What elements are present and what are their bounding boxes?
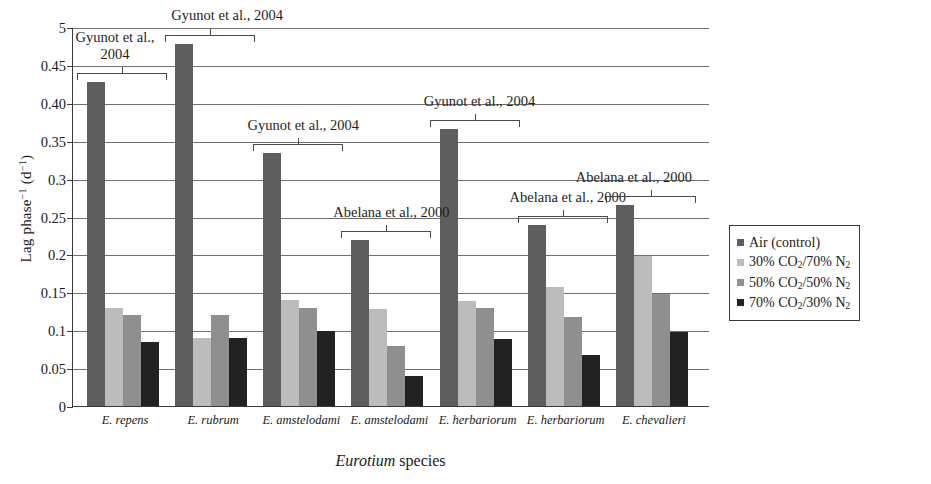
bar[interactable]	[670, 332, 688, 406]
y-axis-tick-label: 0.35	[41, 133, 66, 150]
chart-legend: Air (control)30% CO2/70% N250% CO2/50% N…	[729, 225, 860, 321]
legend-swatch	[737, 279, 744, 286]
x-axis-tick-label: E. rubrum	[187, 413, 238, 428]
y-axis-tick-label: 0.3	[48, 171, 66, 188]
y-axis-tick-mark	[67, 255, 73, 256]
bar[interactable]	[546, 287, 564, 406]
x-axis-title-rest: species	[395, 452, 445, 469]
bar[interactable]	[175, 44, 193, 406]
bar[interactable]	[351, 240, 369, 406]
bar[interactable]	[87, 82, 105, 406]
bar[interactable]	[528, 225, 546, 406]
bar[interactable]	[281, 300, 299, 406]
y-axis-tick-label: 0.1	[48, 323, 66, 340]
bar[interactable]	[405, 376, 423, 406]
bar[interactable]	[652, 294, 670, 406]
y-axis-title-text: Lag phase	[18, 199, 34, 262]
bar[interactable]	[141, 342, 159, 406]
annotation-label: Gyunot et al., 2004	[171, 7, 283, 24]
bar[interactable]	[211, 315, 229, 406]
bar[interactable]	[634, 256, 652, 406]
annotation-bracket-stem	[298, 138, 299, 145]
bar[interactable]	[263, 153, 281, 406]
legend-swatch	[737, 299, 744, 306]
annotation-bracket	[606, 196, 696, 203]
legend-item[interactable]: 70% CO2/30% N2	[737, 293, 850, 313]
bar-group: E. amstelodami	[263, 28, 339, 406]
annotation-label: Gyunot et al.,2004	[76, 29, 155, 63]
bar[interactable]	[387, 346, 405, 406]
y-axis-tick-mark	[67, 331, 73, 332]
bar[interactable]	[494, 339, 512, 406]
bar[interactable]	[123, 315, 141, 406]
annotation-bracket-stem	[651, 190, 652, 197]
legend-item[interactable]: 30% CO2/70% N2	[737, 252, 850, 272]
legend-label: 50% CO2/50% N2	[749, 273, 850, 293]
x-axis-title: Eurotium species	[72, 452, 709, 470]
y-axis-tick-label: 0.40	[41, 95, 66, 112]
x-axis-tick-label: E. amstelodami	[262, 413, 340, 428]
bar[interactable]	[369, 309, 387, 406]
legend-label: 70% CO2/30% N2	[749, 293, 850, 313]
bar[interactable]	[582, 355, 600, 406]
y-axis-title: Lag phase−1 (d−1)	[17, 109, 34, 309]
bar[interactable]	[616, 205, 634, 406]
legend-swatch	[737, 239, 744, 246]
y-axis-tick-mark	[67, 218, 73, 219]
annotation-bracket	[253, 144, 343, 151]
annotation-bracket	[341, 231, 431, 238]
y-axis-tick-label: 0	[59, 399, 66, 416]
bar[interactable]	[440, 129, 458, 406]
y-axis-tick-mark	[67, 28, 73, 29]
annotation-bracket-stem	[122, 67, 123, 74]
y-axis-unit-open: (d	[18, 171, 34, 188]
bar[interactable]	[193, 338, 211, 406]
y-axis-tick-label: 5	[59, 20, 66, 37]
legend-item[interactable]: Air (control)	[737, 233, 850, 252]
bar[interactable]	[458, 301, 476, 406]
legend-item[interactable]: 50% CO2/50% N2	[737, 273, 850, 293]
y-axis-unit-exponent: −1	[17, 160, 28, 171]
y-axis-tick-mark	[67, 369, 73, 370]
legend-label: Air (control)	[749, 233, 820, 252]
annotation-bracket-stem	[563, 210, 564, 217]
y-axis-tick-label: 0.2	[48, 247, 66, 264]
annotation-bracket	[165, 35, 255, 42]
legend-swatch	[737, 259, 744, 266]
annotation-bracket	[430, 120, 520, 127]
plot-area: 00.050.10.150.20.250.30.350.400.455E. re…	[72, 28, 709, 407]
y-axis-tick-mark	[67, 180, 73, 181]
y-axis-unit-close: )	[18, 155, 34, 160]
y-axis-tick-label: 0.45	[41, 57, 66, 74]
annotation-label: Abelana et al., 2000	[333, 204, 449, 221]
bar[interactable]	[105, 308, 123, 406]
x-axis-tick-label: E. repens	[102, 413, 149, 428]
chart-container: Lag phase−1 (d−1) 00.050.10.150.20.250.3…	[0, 0, 931, 484]
annotation-bracket	[518, 216, 608, 223]
bar-group: E. rubrum	[175, 28, 251, 406]
x-axis-tick-label: E. chevalieri	[622, 413, 686, 428]
annotation-bracket-stem	[475, 114, 476, 121]
y-axis-title-exponent: −1	[17, 188, 28, 199]
annotation-label-line: 2004	[76, 46, 155, 63]
y-axis-tick-mark	[67, 293, 73, 294]
bar-group: E. chevalieri	[616, 28, 692, 406]
bar[interactable]	[299, 308, 317, 406]
bar[interactable]	[476, 308, 494, 406]
x-axis-tick-label: E. herbariorum	[527, 413, 605, 428]
y-axis-tick-label: 0.25	[41, 209, 66, 226]
bar[interactable]	[564, 317, 582, 406]
y-axis-tick-label: 0.15	[41, 285, 66, 302]
annotation-bracket-stem	[210, 29, 211, 36]
y-axis-tick-mark	[67, 66, 73, 67]
y-axis-tick-mark	[67, 142, 73, 143]
bar[interactable]	[229, 338, 247, 406]
annotation-label: Gyunot et al., 2004	[424, 93, 536, 110]
y-axis-tick-mark	[67, 104, 73, 105]
y-axis-tick-label: 0.05	[41, 361, 66, 378]
annotation-bracket	[77, 73, 167, 80]
bar[interactable]	[317, 331, 335, 406]
y-axis-tick-mark	[67, 407, 73, 408]
bar-group: E. repens	[87, 28, 163, 406]
x-axis-title-genus: Eurotium	[335, 452, 395, 469]
